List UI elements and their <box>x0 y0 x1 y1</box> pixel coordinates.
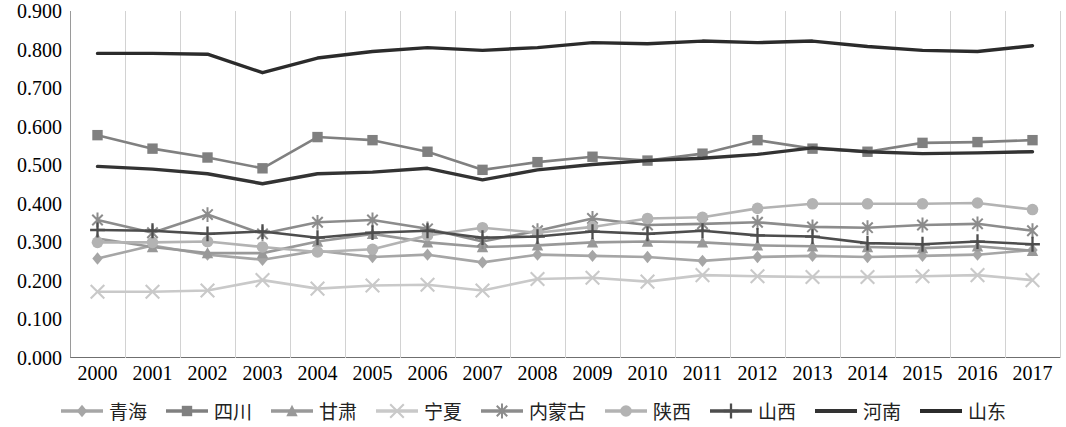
data-point-square <box>587 152 597 162</box>
data-point-circle <box>312 246 324 258</box>
data-point-diamond <box>422 248 432 260</box>
chart-legend: 青海四川甘肃宁夏内蒙古陕西山西河南山东 <box>0 394 1066 427</box>
legend-marker-square-icon <box>165 402 209 420</box>
y-axis-tick-label: 0.200 <box>17 269 62 292</box>
data-point-square <box>422 147 432 157</box>
data-point-square <box>917 138 927 148</box>
data-point-circle <box>917 198 929 210</box>
data-point-diamond <box>92 252 102 264</box>
legend-marker-x-icon <box>375 402 419 420</box>
legend-marker-triangle-icon <box>270 402 314 420</box>
legend-item-山西[interactable]: 山西 <box>709 397 796 424</box>
data-point-square <box>972 137 982 147</box>
data-point-circle <box>1027 204 1039 216</box>
data-point-plus <box>915 237 930 252</box>
series-山东 <box>98 41 1033 73</box>
x-axis-tick-label: 2016 <box>958 362 998 385</box>
data-point-plus <box>255 224 270 239</box>
x-axis-tick-label: 2004 <box>298 362 338 385</box>
data-point-circle <box>257 241 269 253</box>
x-axis-tick-label: 2002 <box>188 362 228 385</box>
data-point-diamond <box>697 255 707 267</box>
data-point-plus <box>695 223 710 238</box>
data-point-circle <box>862 198 874 210</box>
legend-item-青海[interactable]: 青海 <box>60 397 147 424</box>
x-axis-tick-label: 2006 <box>408 362 448 385</box>
data-point-square <box>752 135 762 145</box>
x-axis: 2000200120022003200420052006200720082009… <box>70 362 1060 392</box>
legend-item-陕西[interactable]: 陕西 <box>604 397 691 424</box>
x-axis-tick-label: 2005 <box>353 362 393 385</box>
x-axis-tick-label: 2000 <box>78 362 118 385</box>
data-point-diamond <box>752 251 762 263</box>
x-axis-tick-label: 2015 <box>903 362 943 385</box>
data-point-square <box>532 157 542 167</box>
x-axis-tick-label: 2017 <box>1013 362 1053 385</box>
x-axis-tick-label: 2012 <box>738 362 778 385</box>
legend-marker-circle-icon <box>604 402 648 420</box>
legend-item-山东[interactable]: 山东 <box>919 397 1006 424</box>
data-point-square <box>182 405 192 415</box>
gridline <box>1060 11 1061 358</box>
x-axis-tick-label: 2007 <box>463 362 503 385</box>
data-point-diamond <box>587 250 597 262</box>
series-宁夏 <box>91 268 1040 298</box>
legend-marker-plus-icon <box>709 402 753 420</box>
data-point-square <box>92 130 102 140</box>
data-point-square <box>1027 135 1037 145</box>
data-point-square <box>312 132 322 142</box>
data-point-circle <box>620 405 632 417</box>
legend-item-宁夏[interactable]: 宁夏 <box>375 397 462 424</box>
x-axis-tick-label: 2014 <box>848 362 888 385</box>
legend-marker-line-icon <box>919 402 963 420</box>
x-axis-tick-label: 2010 <box>628 362 668 385</box>
legend-item-四川[interactable]: 四川 <box>165 397 252 424</box>
x-axis-tick-label: 2011 <box>683 362 722 385</box>
legend-marker-asterisk-icon <box>480 402 524 420</box>
y-axis-tick-label: 0.800 <box>17 38 62 61</box>
data-point-plus <box>365 225 380 240</box>
legend-label: 青海 <box>109 397 147 424</box>
data-point-diamond <box>642 251 652 263</box>
legend-label: 山东 <box>968 397 1006 424</box>
legend-item-甘肃[interactable]: 甘肃 <box>270 397 357 424</box>
y-axis-tick-label: 0.500 <box>17 154 62 177</box>
data-point-square <box>147 143 157 153</box>
legend-label: 陕西 <box>653 397 691 424</box>
data-point-diamond <box>477 256 487 268</box>
x-axis-tick-label: 2001 <box>133 362 173 385</box>
legend-label: 内蒙古 <box>529 397 586 424</box>
data-point-plus <box>750 228 765 243</box>
x-axis-tick-label: 2009 <box>573 362 613 385</box>
data-point-plus <box>145 223 160 238</box>
data-point-square <box>477 165 487 175</box>
legend-label: 山西 <box>758 397 796 424</box>
data-point-diamond <box>807 250 817 262</box>
y-axis-tick-label: 0.300 <box>17 231 62 254</box>
legend-marker-line-icon <box>814 402 858 420</box>
y-axis: 0.9000.8000.7000.6000.5000.4000.3000.200… <box>0 0 70 365</box>
line-chart: 0.9000.8000.7000.6000.5000.4000.3000.200… <box>0 0 1066 427</box>
legend-item-河南[interactable]: 河南 <box>814 397 901 424</box>
data-point-plus <box>475 230 490 245</box>
data-point-circle <box>367 243 379 255</box>
series-layer <box>70 11 1060 358</box>
data-point-plus <box>640 226 655 241</box>
legend-marker-diamond-icon <box>60 402 104 420</box>
legend-label: 河南 <box>863 397 901 424</box>
legend-item-内蒙古[interactable]: 内蒙古 <box>480 397 586 424</box>
data-point-circle <box>92 237 104 249</box>
data-point-square <box>202 152 212 162</box>
y-axis-tick-label: 0.700 <box>17 77 62 100</box>
y-axis-tick-label: 0.100 <box>17 308 62 331</box>
data-point-diamond <box>862 251 872 263</box>
y-axis-tick-label: 0.900 <box>17 0 62 23</box>
data-point-circle <box>642 213 654 225</box>
data-point-circle <box>147 237 159 249</box>
x-axis-tick-label: 2003 <box>243 362 283 385</box>
data-point-circle <box>972 197 984 209</box>
legend-label: 四川 <box>214 397 252 424</box>
data-point-square <box>257 163 267 173</box>
y-axis-tick-label: 0.600 <box>17 115 62 138</box>
plot-area <box>70 11 1060 358</box>
